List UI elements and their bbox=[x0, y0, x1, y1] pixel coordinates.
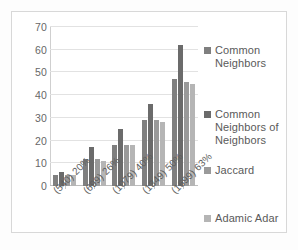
legend-label: Common Neighbors bbox=[215, 44, 296, 70]
y-tick-label: 50 bbox=[35, 66, 47, 78]
legend-label: Adamic Adar bbox=[215, 212, 278, 225]
legend-item[interactable]: Jaccard bbox=[204, 164, 296, 177]
legend-swatch-icon bbox=[204, 47, 211, 54]
legend-swatch-icon bbox=[204, 111, 211, 118]
legend-label: Jaccard bbox=[215, 164, 254, 177]
legend-swatch-icon bbox=[204, 167, 211, 174]
chart-legend: Common NeighborsCommon Neighbors of Neig… bbox=[204, 30, 296, 230]
chart-screenshot: 706050403020100 (540) 20%(699) 26%(1079)… bbox=[0, 0, 298, 250]
y-axis-tick-labels: 706050403020100 bbox=[23, 27, 49, 186]
x-axis-category-labels: (540) 20%(699) 26%(1079) 40%(1349) 50%(1… bbox=[50, 188, 200, 246]
y-tick-label: 10 bbox=[35, 157, 47, 169]
y-tick-label: 60 bbox=[35, 44, 47, 56]
y-tick-label: 30 bbox=[35, 112, 47, 124]
y-tick-label: 0 bbox=[41, 180, 47, 192]
legend-label: Common Neighbors of Neighbors bbox=[215, 108, 296, 147]
y-tick-label: 70 bbox=[35, 21, 47, 33]
legend-item[interactable]: Adamic Adar bbox=[204, 212, 296, 225]
legend-item[interactable]: Common Neighbors of Neighbors bbox=[204, 108, 296, 147]
legend-item[interactable]: Common Neighbors bbox=[204, 44, 296, 70]
y-tick-label: 20 bbox=[35, 135, 47, 147]
y-tick-label: 40 bbox=[35, 89, 47, 101]
legend-swatch-icon bbox=[204, 215, 211, 222]
chart-frame: 706050403020100 (540) 20%(699) 26%(1079)… bbox=[11, 11, 287, 233]
